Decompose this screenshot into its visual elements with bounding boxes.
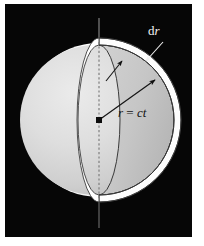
thickness-label: dr	[148, 23, 161, 38]
center-dot	[96, 117, 102, 123]
radius-label: r = ct	[118, 105, 147, 120]
sphere-shell-diagram: r = ct dr	[5, 4, 192, 237]
radius-label-eq: =	[123, 105, 137, 120]
radius-label-ct: ct	[137, 105, 147, 120]
figure-frame: r = ct dr	[5, 4, 192, 237]
figure-root: r = ct dr	[0, 0, 204, 246]
